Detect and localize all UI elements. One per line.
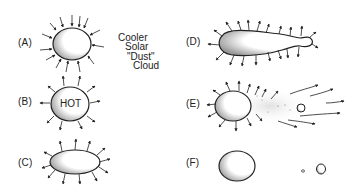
panel-label-b: (B) <box>18 96 32 107</box>
panel-e-body <box>207 81 344 131</box>
panel-label-f: (F) <box>186 157 199 168</box>
panel-label-e: (E) <box>186 98 200 109</box>
panel-label-c: (C) <box>18 157 32 168</box>
panel-d-body <box>208 20 318 66</box>
panel-c-body <box>42 139 110 184</box>
annotation-line-4: Cloud <box>133 61 159 71</box>
panel-label-d: (D) <box>186 36 200 47</box>
hot-label: HOT <box>60 98 81 109</box>
panel-label-a: (A) <box>18 37 32 48</box>
panel-a-body <box>40 15 104 72</box>
diagram-canvas <box>0 0 364 192</box>
panel-f-body <box>212 146 326 186</box>
